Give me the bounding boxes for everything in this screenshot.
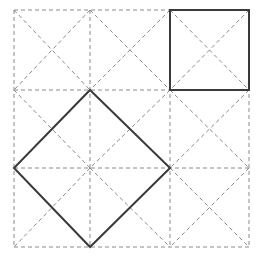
diagram-background [0,0,264,267]
figure-root: small solid square in top-right celllarg… [0,0,264,267]
geometry-diagram: small solid square in top-right celllarg… [0,0,264,267]
